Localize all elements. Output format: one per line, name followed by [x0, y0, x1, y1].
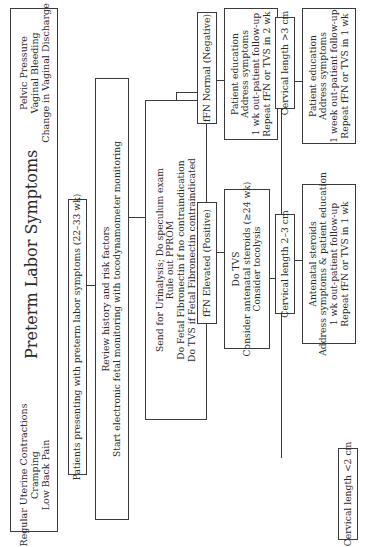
step2-line: Start electronic fetal monitoring with t…	[112, 141, 123, 457]
ffn-normal-label: fFN Normal (Negative)	[202, 14, 213, 122]
connector	[87, 285, 95, 286]
action: 1 week out-patient follow-up	[329, 9, 340, 142]
connector	[129, 217, 145, 218]
cervical-lt2-box: Cervical length <2 cm	[338, 448, 358, 540]
connector	[217, 252, 224, 253]
symptom: Pelvic Pressure	[18, 36, 29, 110]
ffn-normal-box: fFN Normal (Negative)	[197, 12, 217, 124]
symptoms-left-list: Regular Uterine Contractions Cramping Lo…	[12, 420, 56, 530]
ffn-elevated-actions-box: Do TVS Consider antenatal steroids (≥24 …	[224, 189, 270, 349]
step1-text: Patients presenting with preterm labor s…	[72, 194, 83, 481]
action: Repeat fFN or TVS in 1 wk	[340, 13, 351, 138]
symptom: Low Back Pain	[40, 440, 51, 511]
symptom: Vaginal Bleeding	[29, 32, 40, 113]
action: Repeat fFN or TVS in 1 wk	[340, 201, 351, 326]
diagram-title: Preterm Labor Symptoms	[22, 150, 41, 359]
connector	[295, 260, 302, 261]
step3-line: Do TVS if Fetal Fibronectin contraindica…	[187, 158, 198, 362]
symptoms-right-list: Pelvic Pressure Vaginal Bleeding Change …	[12, 10, 56, 136]
action: Consider tocolysis	[252, 226, 263, 311]
connector	[295, 81, 302, 82]
connector	[176, 92, 177, 100]
action: Repeat fFN or TVS in 2 wk	[262, 11, 273, 136]
ffn-elevated-label: fFN Elevated (Positive)	[202, 209, 213, 317]
step3-line: Do Fetal Fibronectin if no contraindicat…	[176, 160, 187, 359]
symptom: Regular Uterine Contractions	[18, 403, 29, 546]
ffn-normal-actions-box: Patient education Address symptoms 1 wk …	[224, 8, 278, 140]
cervical-2to3-box: Cervical length 2–3 cm	[275, 214, 295, 314]
cervical-label: Cervical length <2 cm	[343, 442, 354, 547]
action: 1 wk out-patient follow-up	[329, 203, 340, 325]
ffn-elevated-box: fFN Elevated (Positive)	[197, 202, 217, 324]
connector	[217, 80, 224, 81]
cervical-gt3-box: Cervical length >3 cm	[275, 17, 295, 109]
cervical-2to3-actions-box: Antenatal steroids Address symptoms & pa…	[302, 184, 356, 344]
cervical-label: Cervical length 2–3 cm	[280, 210, 291, 317]
cervical-label: Cervical length >3 cm	[280, 11, 291, 116]
presenting-patients-box: Patients presenting with preterm labor s…	[68, 199, 87, 475]
symptom: Change in Vaginal Discharge	[40, 3, 51, 143]
review-history-box: Review history and risk factors Start el…	[95, 78, 129, 520]
cervical-gt3-actions-box: Patient education Address symptoms 1 wee…	[302, 8, 356, 144]
symptom: Cramping	[29, 451, 40, 499]
action: 1 wk out-patient follow-up	[251, 13, 262, 135]
